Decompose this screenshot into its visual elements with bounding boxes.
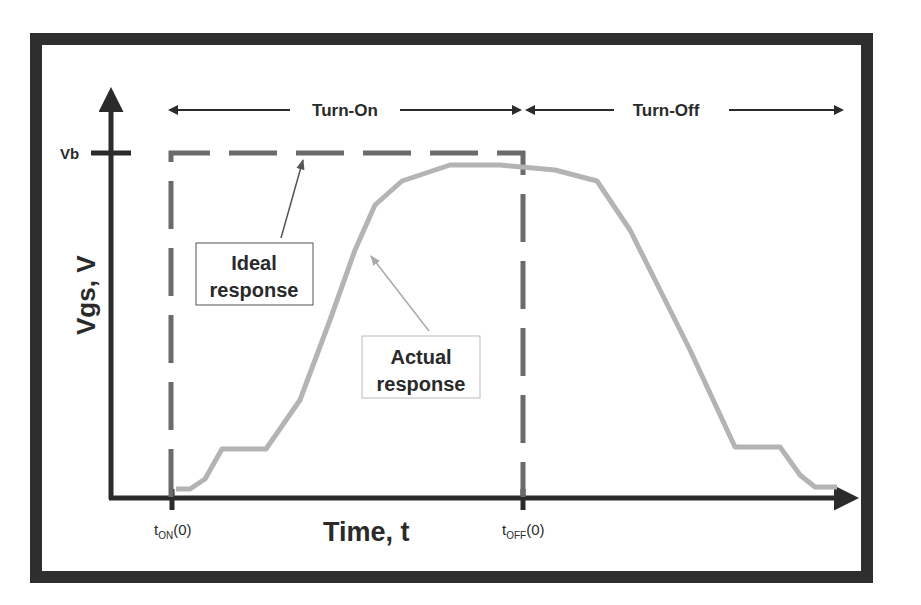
t-on-label: tON(0) [154,521,192,541]
ideal-pointer-arrow [281,160,303,238]
vb-label: Vb [60,145,79,162]
y-axis-label: Vgs, V [71,255,101,335]
x-axis-label: Time, t [323,517,410,547]
actual-response-curve [176,165,837,489]
actual-callout-line1: Actual [390,346,451,368]
vgs-switching-diagram: Vb Turn-On Turn-Off Ideal response Actua… [0,0,921,605]
ideal-response-line [171,153,523,497]
t-off-label: tOFF(0) [502,521,545,541]
ideal-callout-line2: response [210,279,299,301]
actual-pointer-arrow [371,256,429,331]
actual-callout-line2: response [377,373,466,395]
ideal-callout-line1: Ideal [231,252,277,274]
turn-on-label: Turn-On [312,101,378,120]
turn-off-label: Turn-Off [633,101,700,120]
